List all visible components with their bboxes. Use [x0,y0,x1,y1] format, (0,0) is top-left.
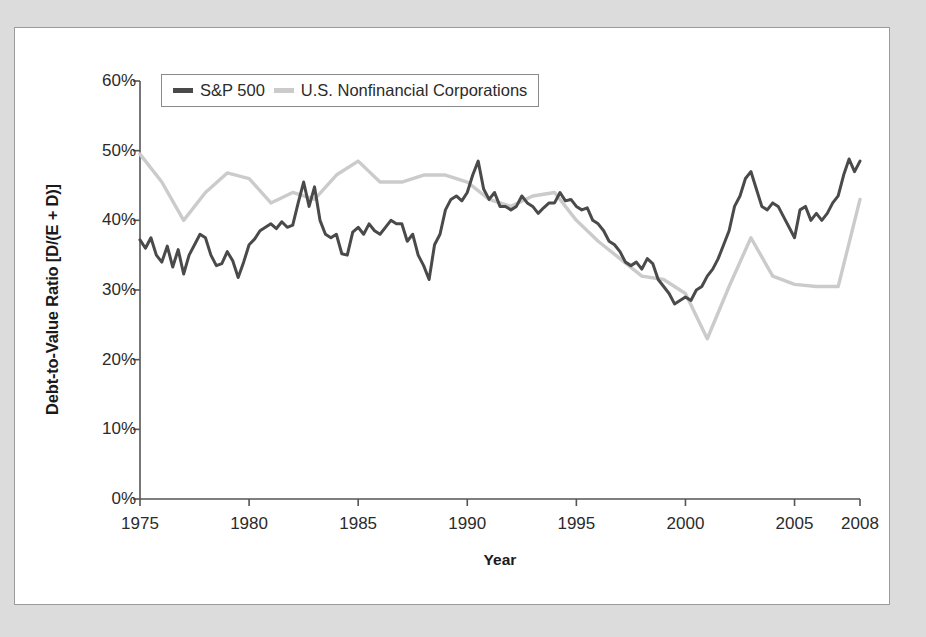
y-axis-title: Debt-to-Value Ratio [D/(E + D)] [43,90,62,510]
x-tick-label: 1985 [323,515,393,532]
x-tick-label: 1975 [105,515,175,532]
x-tick-label: 1990 [432,515,502,532]
chart-panel: 0%10%20%30%40%50%60% 1975198019851990199… [14,27,890,605]
x-tick-label: 2005 [760,515,830,532]
legend-label-sp500: S&P 500 [200,81,265,100]
x-tick-label: 1995 [541,515,611,532]
plot-stage: 0%10%20%30%40%50%60% 1975198019851990199… [15,28,891,606]
y-tick-label: 30% [74,281,136,298]
figure-outer-background: 0%10%20%30%40%50%60% 1975198019851990199… [0,0,926,637]
y-tick-label: 0% [74,490,136,507]
legend-entry-us-nonfinancial: U.S. Nonfinancial Corporations [274,81,528,100]
y-tick-label: 20% [74,351,136,368]
legend-entry-sp500: S&P 500 [173,81,265,100]
chart-legend: S&P 500 U.S. Nonfinancial Corporations [161,74,539,107]
x-tick-label: 1980 [214,515,284,532]
x-axis-title: Year [140,551,860,569]
y-tick-label: 50% [74,142,136,159]
legend-label-us-nonfinancial: U.S. Nonfinancial Corporations [301,81,528,100]
y-tick-label: 60% [74,72,136,89]
x-axis-tick-labels: 19751980198519901995200020052008 [15,515,891,545]
y-tick-label: 40% [74,211,136,228]
legend-swatch-sp500 [173,88,193,93]
y-tick-label: 10% [74,420,136,437]
legend-swatch-us-nonfinancial [274,88,294,93]
x-tick-label: 2000 [650,515,720,532]
x-tick-label: 2008 [825,515,895,532]
